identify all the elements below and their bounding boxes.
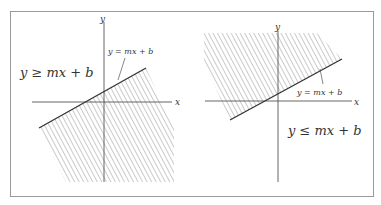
left-panel: y x y = mx + b y ≥ mx + b <box>19 14 180 182</box>
left-y-axis-label: y <box>99 14 106 24</box>
left-line-label: y = mx + b <box>107 47 153 56</box>
inequality-diagram: y x y = mx + b y ≥ mx + b y x y = mx + b… <box>0 0 381 205</box>
left-region-label: y ≥ mx + b <box>19 65 94 80</box>
left-label-pointer <box>118 58 125 80</box>
right-y-axis-label: y <box>274 22 281 32</box>
right-label-pointer <box>320 69 323 84</box>
right-panel: y x y = mx + b y ≤ mx + b <box>204 22 362 182</box>
right-x-axis-label: x <box>354 97 359 107</box>
left-shaded-region <box>39 68 174 182</box>
right-line-label: y = mx + b <box>296 88 342 97</box>
right-region-label: y ≤ mx + b <box>287 123 362 138</box>
left-x-axis-label: x <box>175 97 180 107</box>
